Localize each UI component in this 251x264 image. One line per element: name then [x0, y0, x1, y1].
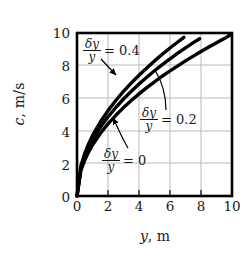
annotation-0.4: δy y = 0.4: [83, 38, 140, 63]
annotation-0.2: δy y = 0.2: [140, 107, 197, 132]
fraction-delta-y-over-y: δy y: [102, 148, 120, 173]
fraction-denominator: y: [106, 161, 117, 173]
annotation-0: δy y = 0: [102, 148, 146, 173]
annotation-value: = 0.2: [161, 113, 197, 126]
fraction-delta-y-over-y: δy y: [140, 107, 158, 132]
leader-line-0: [113, 118, 128, 148]
wave-speed-chart: c, m/s y, m 10 8 6 4 2 0 0 2 4 6 8 10: [0, 0, 251, 264]
fraction-numerator: δy: [140, 107, 158, 119]
fraction-denominator: y: [87, 51, 98, 63]
fraction-numerator: δy: [102, 148, 120, 160]
fraction-denominator: y: [144, 120, 155, 132]
fraction-numerator: δy: [83, 38, 101, 50]
annotation-value: = 0.4: [104, 44, 140, 57]
annotation-value: = 0: [123, 154, 146, 167]
fraction-delta-y-over-y: δy y: [83, 38, 101, 63]
